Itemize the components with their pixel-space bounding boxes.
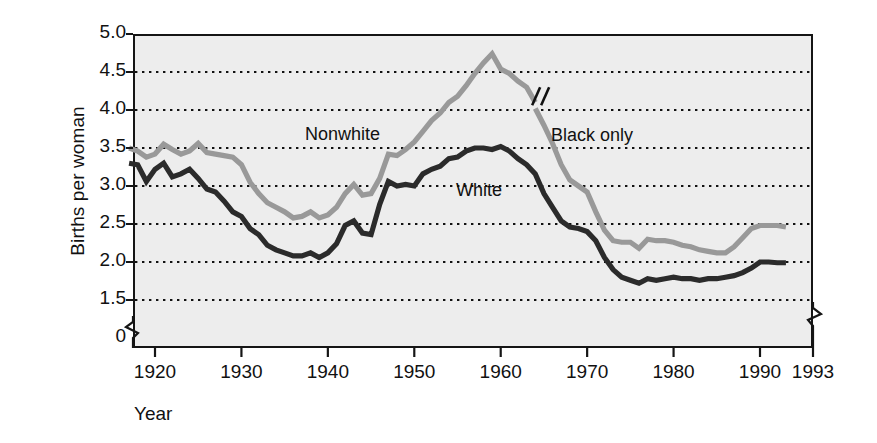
x-tick-label-1993: 1993: [792, 361, 834, 383]
x-tick-label-1920: 1920: [134, 361, 176, 383]
series-label-nonwhite: Nonwhite: [305, 124, 380, 145]
x-axis-tick-labels: 192019301940195019601970198019901993: [0, 0, 877, 443]
x-tick-label-1960: 1960: [480, 361, 522, 383]
series-label-white: White: [456, 180, 502, 201]
x-tick-label-1930: 1930: [220, 361, 262, 383]
x-tick-label-1990: 1990: [739, 361, 781, 383]
x-tick-label-1970: 1970: [566, 361, 608, 383]
series-label-black-only: Black only: [551, 125, 633, 146]
x-tick-label-1940: 1940: [307, 361, 349, 383]
x-axis-title: Year: [134, 403, 172, 425]
x-tick-label-1950: 1950: [393, 361, 435, 383]
chart-figure: Births per woman 5.04.54.03.53.02.52.01.…: [0, 0, 877, 443]
x-tick-label-1980: 1980: [652, 361, 694, 383]
